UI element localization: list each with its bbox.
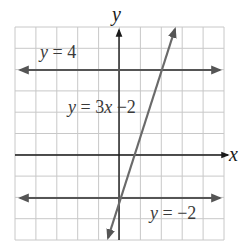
y-axis-label: y: [110, 3, 121, 26]
label-y-equals-3x-minus-2: y = 3x −2: [66, 97, 136, 117]
label-y-equals-4: y = 4: [38, 42, 76, 62]
label-y-equals-neg2: y = −2: [148, 203, 196, 223]
x-axis-label: x: [228, 143, 238, 165]
coordinate-plane: x y y = 4 y = 3x −2 y = −2: [0, 0, 244, 243]
